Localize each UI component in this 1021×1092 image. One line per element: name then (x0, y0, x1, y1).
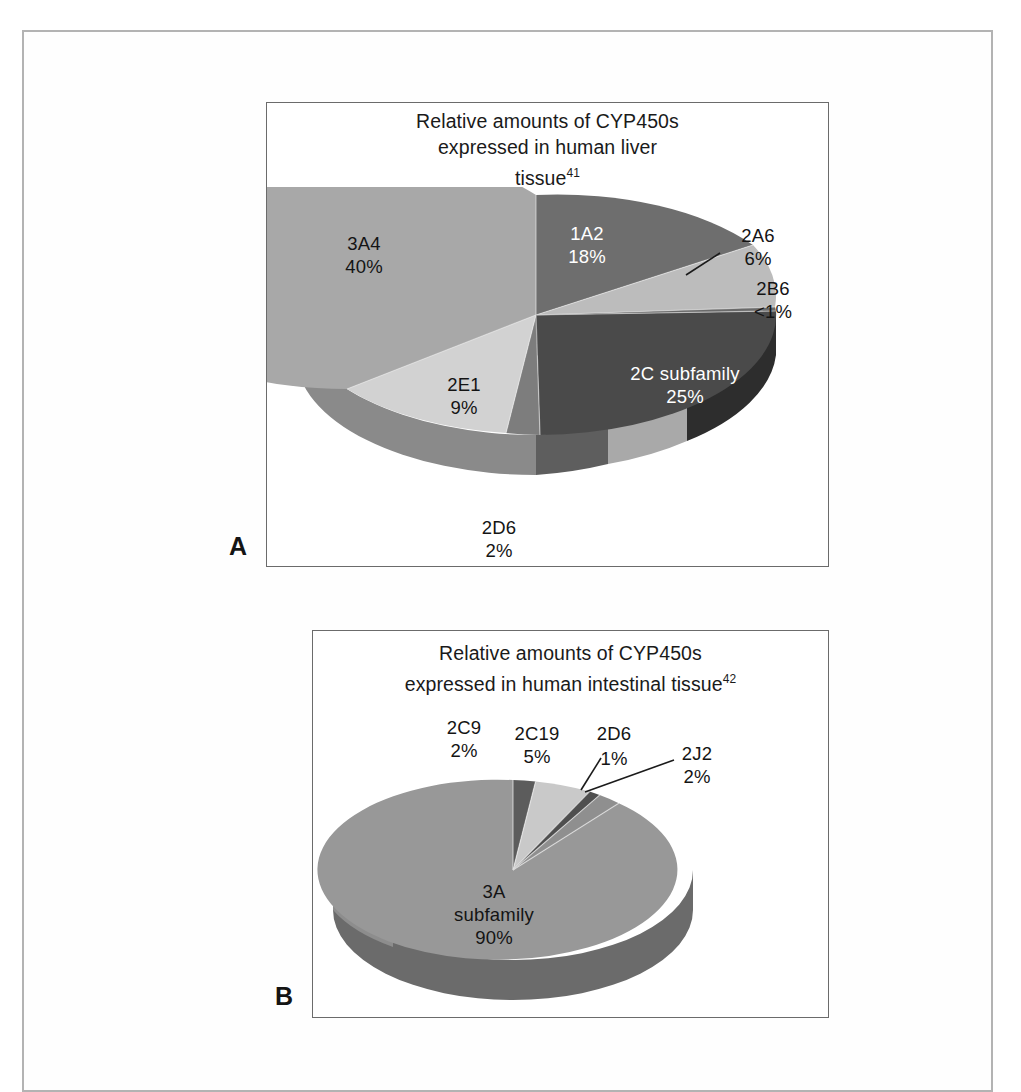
pie-slice-label-3a4: 3A4 40% (319, 232, 409, 278)
pie-slice-label-2b6: 2B6 <1% (728, 277, 818, 323)
pie-slice-value-2d6: 2% (454, 539, 544, 562)
pie-slice-value-2a6: 6% (718, 247, 798, 270)
pie-slice-value-1a2: 18% (542, 245, 632, 268)
panel-b-title-line2: expressed in human intestinal tissue (405, 673, 723, 695)
pie-slice-value-2c-subfamily: 25% (600, 385, 770, 408)
panel-a-title-line2: expressed in human liver (438, 136, 657, 158)
pie-slice-name-2a6: 2A6 (718, 224, 798, 247)
pie-slice-value-2d6-intestine: 1% (579, 747, 649, 770)
pie-slice-name-3a-line2: subfamily (424, 903, 564, 926)
pie-slice-name-2c19: 2C19 (497, 722, 577, 745)
pie-slice-name-2c9: 2C9 (429, 716, 499, 739)
panel-b-title-line1: Relative amounts of CYP450s (439, 642, 702, 664)
pie-slice-label-2d6-intestine: 2D6 1% (579, 722, 649, 768)
pie-slice-value-2c19: 5% (497, 745, 577, 768)
pie-slice-label-1a2: 1A2 18% (542, 222, 632, 268)
pie-slice-label-2e1: 2E1 9% (424, 373, 504, 419)
pie-slice-name-2c-subfamily: 2C subfamily (600, 362, 770, 385)
pie-slice-value-2e1: 9% (424, 396, 504, 419)
pie-slice-value-2j2: 2% (662, 765, 732, 788)
pie-slice-value-3a-subfamily: 90% (424, 926, 564, 949)
pie-slice-label-2j2: 2J2 2% (662, 742, 732, 788)
pie-slice-name-3a4: 3A4 (319, 232, 409, 255)
pie-slice-label-2d6: 2D6 2% (454, 516, 544, 562)
panel-a-title: Relative amounts of CYP450s expressed in… (276, 108, 819, 191)
pie-slice-name-2j2: 2J2 (662, 742, 732, 765)
panel-a-title-line1: Relative amounts of CYP450s (416, 110, 679, 132)
pie-slice-label-2c-subfamily: 2C subfamily 25% (600, 362, 770, 408)
pie-slice-name-2b6: 2B6 (728, 277, 818, 300)
panel-letter-b: B (275, 982, 294, 1011)
pie-slice-value-3a4: 40% (319, 255, 409, 278)
panel-letter-a: A (229, 532, 248, 561)
pie-slice-label-3a-subfamily: 3A subfamily 90% (424, 880, 564, 949)
pie-slice-label-2c9: 2C9 2% (429, 716, 499, 762)
figure-frame: Relative amounts of CYP450s expressed in… (22, 30, 993, 1092)
pie-slice-label-2a6: 2A6 6% (718, 224, 798, 270)
panel-b-title: Relative amounts of CYP450s expressed in… (322, 640, 819, 697)
pie-slice-name-2e1: 2E1 (424, 373, 504, 396)
pie-slice-name-1a2: 1A2 (542, 222, 632, 245)
pie-slice-value-2b6: <1% (728, 300, 818, 323)
panel-a-title-ref: 41 (566, 166, 580, 180)
pie-slice-label-2c19: 2C19 5% (497, 722, 577, 768)
pie-slice-name-3a: 3A (424, 880, 564, 903)
panel-a-title-line3: tissue (515, 167, 567, 189)
pie-slice-name-2d6: 2D6 (454, 516, 544, 539)
panel-b-title-ref: 42 (723, 672, 737, 686)
pie-slice-value-2c9: 2% (429, 739, 499, 762)
pie-slice-name-2d6-intestine: 2D6 (579, 722, 649, 745)
